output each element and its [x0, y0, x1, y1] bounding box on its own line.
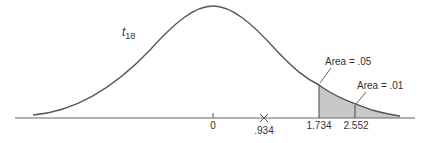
area-05-annotation: Area = .05: [325, 57, 371, 67]
tick-label-2552: 2.552: [343, 121, 368, 131]
area-01-annotation: Area = .01: [357, 81, 403, 91]
distribution-label: t18: [122, 26, 135, 41]
dist-subscript: 18: [125, 31, 135, 41]
leader-line-area-01: [356, 92, 366, 104]
leader-line-area-05: [320, 68, 331, 83]
tick-label-1734: 1.734: [306, 121, 331, 131]
tick-label-934: .934: [254, 126, 273, 136]
tick-label-0: 0: [210, 121, 216, 131]
